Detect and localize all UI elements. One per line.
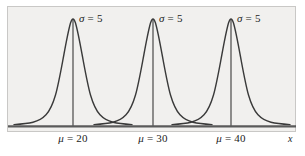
mu-label-30: μ = 30	[138, 132, 167, 144]
sigma-value-3: = 5	[243, 12, 261, 24]
mu-label-20: μ = 20	[58, 132, 87, 144]
sigma-value-1: = 5	[85, 12, 103, 24]
mu-label-40: μ = 40	[216, 132, 245, 144]
mu-value-3: = 40	[222, 132, 246, 144]
sigma-label-curve-1: σ = 5	[79, 12, 103, 24]
mu-value-2: = 30	[144, 132, 168, 144]
mu-value-1: = 20	[64, 132, 88, 144]
x-axis-label: x	[288, 133, 292, 144]
normal-distributions-figure: σ = 5 σ = 5 σ = 5 μ = 20 μ = 30 μ = 40 x	[0, 0, 305, 156]
sigma-label-curve-2: σ = 5	[159, 12, 183, 24]
sigma-value-2: = 5	[165, 12, 183, 24]
sigma-label-curve-3: σ = 5	[237, 12, 261, 24]
